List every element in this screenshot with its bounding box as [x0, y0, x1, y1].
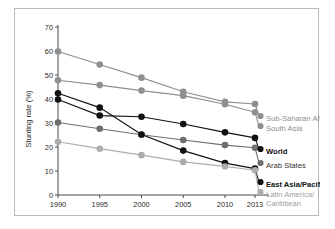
x-tick-label: 1990 — [50, 200, 66, 209]
y-tick-label: 50 — [45, 71, 53, 80]
data-point-marker — [252, 101, 259, 108]
x-tick-label: 2010 — [217, 200, 233, 209]
y-axis-title: Stunting rate (%) — [24, 90, 33, 147]
data-point-marker — [55, 48, 62, 55]
data-point-marker — [138, 131, 145, 138]
series-markers-group — [55, 48, 264, 195]
data-point-marker — [55, 138, 62, 145]
y-tick-label: 40 — [45, 95, 53, 104]
legend-marker — [257, 123, 263, 129]
data-point-marker — [138, 113, 145, 120]
y-tick-label: 70 — [45, 23, 53, 32]
y-tick-label: 30 — [45, 119, 53, 128]
data-point-marker — [180, 147, 187, 154]
data-point-marker — [180, 121, 187, 128]
stunting-rate-line-chart: Stunting rate (%) 010203040506070 199019… — [15, 9, 320, 217]
legend-marker — [257, 160, 263, 166]
y-tick-label: 10 — [45, 167, 53, 176]
data-point-marker — [252, 167, 259, 174]
data-point-marker — [180, 137, 187, 144]
series-label-south-asia: South Asia — [266, 124, 303, 133]
series-label-sub-saharan-africa: Sub-Saharan Africa — [266, 114, 320, 123]
data-point-marker — [96, 145, 103, 152]
data-point-marker — [252, 109, 259, 116]
series-inline-labels: Sub-Saharan AfricaSouth AsiaWorldArab St… — [266, 114, 320, 208]
data-point-marker — [222, 142, 229, 149]
y-tick-label: 20 — [45, 143, 53, 152]
x-tick-label: 2013 — [247, 200, 263, 209]
x-axis-ticks: 199019952000200520102013 — [50, 195, 263, 209]
data-point-marker — [96, 125, 103, 132]
figure-frame: Stunting rate (%) 010203040506070 199019… — [14, 8, 319, 216]
x-tick-label: 2000 — [133, 200, 149, 209]
y-tick-label: 0 — [49, 191, 53, 200]
data-point-marker — [252, 135, 259, 142]
data-point-marker — [138, 74, 145, 81]
legend-marker — [257, 179, 263, 185]
series-label-latin-america-caribbean-line2: Caribbean — [266, 199, 301, 208]
data-point-marker — [96, 112, 103, 119]
data-point-marker — [55, 90, 62, 97]
data-point-marker — [138, 87, 145, 94]
x-tick-label: 1995 — [92, 200, 108, 209]
y-tick-label: 60 — [45, 47, 53, 56]
data-point-marker — [138, 152, 145, 159]
series-label-latin-america-caribbean-line1: Latin America/ — [266, 190, 315, 199]
series-label-east-asia-pacific: East Asia/Pacific — [266, 180, 320, 189]
data-point-marker — [222, 129, 229, 136]
data-point-marker — [55, 77, 62, 84]
legend-marker — [257, 146, 263, 152]
data-point-marker — [222, 101, 229, 108]
data-point-marker — [252, 144, 259, 151]
data-point-marker — [96, 104, 103, 111]
legend-marker — [257, 113, 263, 119]
data-point-marker — [96, 61, 103, 68]
data-point-marker — [96, 82, 103, 89]
series-label-arab-states: Arab States — [266, 161, 306, 170]
data-point-marker — [55, 119, 62, 126]
series-line — [58, 51, 255, 104]
data-point-marker — [55, 96, 62, 103]
legend-marker — [257, 189, 263, 195]
series-lines-group — [58, 51, 259, 192]
chart-plot-area: Stunting rate (%) 010203040506070 199019… — [15, 9, 320, 217]
data-point-marker — [180, 159, 187, 166]
data-point-marker — [222, 163, 229, 170]
series-label-world: World — [266, 147, 288, 156]
x-tick-label: 2005 — [175, 200, 191, 209]
data-point-marker — [180, 92, 187, 99]
